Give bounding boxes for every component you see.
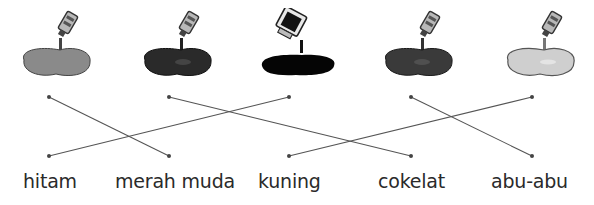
top-dot[interactable] bbox=[47, 95, 51, 99]
top-dot[interactable] bbox=[409, 95, 413, 99]
connection-line bbox=[169, 97, 411, 156]
bottom-dot[interactable] bbox=[409, 154, 413, 158]
label-cokelat: cokelat bbox=[378, 170, 445, 192]
top-dot[interactable] bbox=[530, 95, 534, 99]
connection-line bbox=[49, 97, 289, 156]
bottom-dot[interactable] bbox=[287, 154, 291, 158]
top-dot[interactable] bbox=[167, 95, 171, 99]
bottom-dot[interactable] bbox=[530, 154, 534, 158]
top-dot[interactable] bbox=[287, 95, 291, 99]
connection-line bbox=[289, 97, 532, 156]
bottom-dot[interactable] bbox=[167, 154, 171, 158]
label-abu-abu: abu-abu bbox=[491, 170, 568, 192]
connection-line bbox=[411, 97, 532, 156]
connection-line bbox=[49, 97, 169, 156]
label-kuning: kuning bbox=[258, 170, 321, 192]
bottom-dot[interactable] bbox=[47, 154, 51, 158]
label-merah-muda: merah muda bbox=[115, 170, 235, 192]
label-hitam: hitam bbox=[23, 170, 77, 192]
